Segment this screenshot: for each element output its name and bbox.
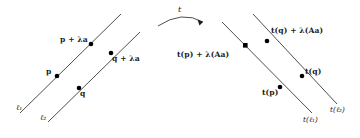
affine-transformation-figure: ℓ₁ ℓ₂ p q p + λa q + λa t t(p) + λ(Aa) t… bbox=[0, 0, 360, 138]
point-q-plus-lambda-a-label: q + λa bbox=[112, 55, 140, 63]
image-point-tq-plus-lambda-Aa bbox=[265, 39, 270, 44]
image-point-tq bbox=[300, 74, 305, 79]
point-p-label: p bbox=[46, 68, 51, 76]
point-q-label: q bbox=[80, 90, 85, 98]
map-label: t bbox=[178, 6, 181, 14]
image-point-tp-plus-lambda-Aa bbox=[243, 43, 248, 48]
line-1-segment bbox=[20, 14, 121, 113]
point-p bbox=[55, 74, 60, 79]
line-1-label: ℓ₁ bbox=[16, 104, 22, 112]
line-2-segment bbox=[48, 32, 140, 122]
map-arrow bbox=[158, 17, 203, 26]
image-line-1-segment bbox=[222, 22, 312, 113]
image-point-tq-label: t(q) bbox=[305, 68, 321, 76]
image-point-tp-plus-lambda-Aa-label: t(p) + λ(Aa) bbox=[177, 51, 229, 59]
image-point-tq-plus-lambda-Aa-label: t(q) + λ(Aa) bbox=[271, 27, 323, 35]
point-p-plus-lambda-a bbox=[89, 42, 94, 47]
image-point-tp-label: t(p) bbox=[262, 89, 278, 97]
image-line-1-label: t(ℓ₁) bbox=[303, 116, 318, 123]
image-line-2-label: t(ℓ₂) bbox=[330, 106, 345, 113]
point-p-plus-lambda-a-label: p + λa bbox=[60, 36, 88, 44]
line-2-label: ℓ₂ bbox=[40, 114, 46, 122]
